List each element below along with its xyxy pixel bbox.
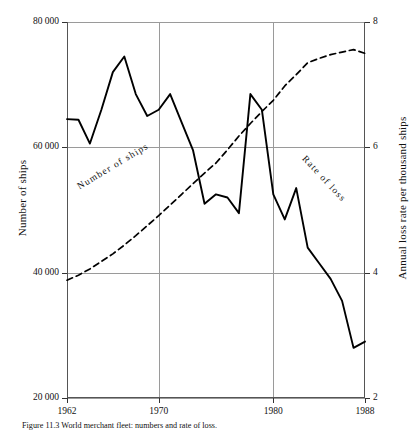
y-tick-label-left: 40 000 [15, 267, 59, 277]
y-tick-label-right: 2 [373, 392, 403, 402]
figure-caption: Figure 11.3 World merchant fleet: number… [22, 420, 402, 431]
y-tick-label-right: 8 [373, 16, 403, 26]
tick-marks [62, 23, 370, 404]
x-tick-label: 1980 [253, 406, 293, 416]
y-tick-label-right: 6 [373, 141, 403, 151]
data-series [67, 50, 365, 348]
x-tick-label: 1970 [139, 406, 179, 416]
series-path-rate-of-loss [67, 56, 365, 347]
y-tick-label-left: 60 000 [15, 141, 59, 151]
y-tick-label-left: 20 000 [15, 392, 59, 402]
x-tick-label: 1962 [47, 406, 87, 416]
y-tick-label-right: 4 [373, 267, 403, 277]
chart-canvas [0, 0, 413, 435]
x-tick-label: 1988 [345, 406, 385, 416]
figure: Number of ships Annual loss rate per tho… [0, 0, 413, 435]
y-tick-label-left: 80 000 [15, 16, 59, 26]
